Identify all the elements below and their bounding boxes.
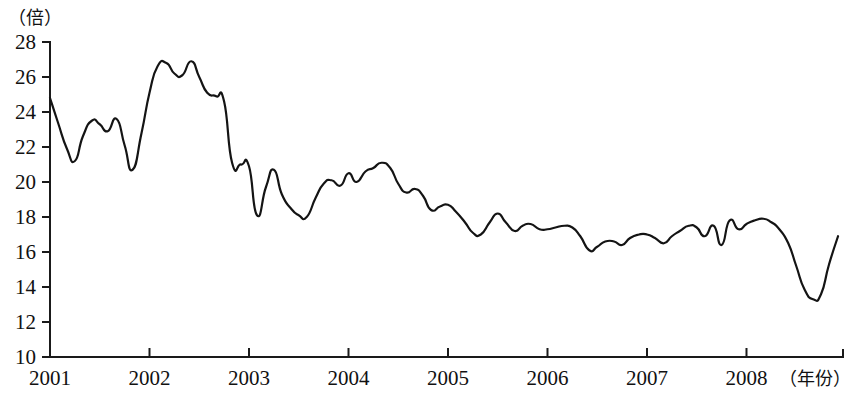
y-tick-label: 20 [15,170,36,194]
y-tick-group: 10121416182022242628 [15,30,50,369]
axis-group [42,42,843,357]
x-tick-label: 2007 [626,366,668,390]
y-tick-label: 26 [15,65,36,89]
chart-page: （倍） 10121416182022242628 200120022003200… [0,0,856,394]
line-chart: （倍） 10121416182022242628 200120022003200… [0,0,856,394]
x-tick-label: 2005 [427,366,469,390]
y-tick-label: 12 [15,310,36,334]
y-axis-unit-label: （倍） [8,7,62,28]
x-tick-label: 2002 [128,366,170,390]
y-tick-label: 18 [15,205,36,229]
y-tick-label: 14 [15,275,37,299]
y-tick-label: 22 [15,135,36,159]
x-tick-label: 2004 [327,366,370,390]
x-tick-label: 2008 [725,366,767,390]
y-tick-label: 16 [15,240,36,264]
x-tick-label: 2001 [29,366,71,390]
x-tick-group: 20012002200320042005200620072008 [29,348,767,390]
x-tick-label: 2006 [526,366,568,390]
series-line-pe-ratio [50,61,838,301]
x-tick-label: 2003 [228,366,270,390]
y-tick-label: 28 [15,30,36,54]
y-tick-label: 24 [15,100,37,124]
x-axis-unit-label: （年份） [779,368,851,389]
